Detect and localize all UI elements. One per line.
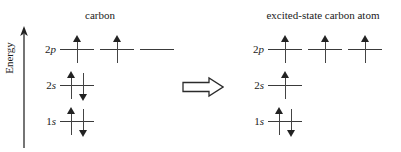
electron-spin-up xyxy=(360,35,370,65)
electron-spin-down xyxy=(78,107,88,137)
shell-label-subshell: s xyxy=(260,115,264,127)
shell-label-2p-left: 2p xyxy=(34,43,56,55)
shell-label-subshell: s xyxy=(52,115,56,127)
electron-spin-up xyxy=(280,35,290,65)
shell-label-subshell: s xyxy=(260,79,264,91)
shell-label-1s-right: 1s xyxy=(242,115,264,127)
electron-spin-up xyxy=(72,35,82,65)
orbital-box[interactable] xyxy=(140,35,174,65)
shell-label-2s-left: 2s xyxy=(34,79,56,91)
orbital-box[interactable] xyxy=(100,35,134,65)
orbital-line xyxy=(140,49,174,50)
orbital-box[interactable] xyxy=(268,71,302,101)
electron-spin-up xyxy=(280,71,290,101)
shell-label-2p-right: 2p xyxy=(242,43,264,55)
electron-spin-down xyxy=(78,71,88,101)
orbital-box[interactable] xyxy=(308,35,342,65)
orbital-box[interactable] xyxy=(60,107,94,137)
electron-spin-up xyxy=(66,71,76,101)
shell-label-2s-right: 2s xyxy=(242,79,264,91)
shell-label-subshell: p xyxy=(51,43,57,55)
electron-spin-up xyxy=(112,35,122,65)
orbital-box[interactable] xyxy=(60,71,94,101)
orbital-box[interactable] xyxy=(268,107,302,137)
shell-label-subshell: p xyxy=(259,43,265,55)
shell-label-subshell: s xyxy=(52,79,56,91)
shell-label-1s-left: 1s xyxy=(34,115,56,127)
electron-spin-up xyxy=(320,35,330,65)
electron-spin-up xyxy=(66,107,76,137)
orbital-box[interactable] xyxy=(268,35,302,65)
orbital-diagram-figure: carbon excited-state carbon atom Energy … xyxy=(0,0,401,152)
left-orbital-diagram: 2p 2s xyxy=(0,0,180,152)
transition-arrow-icon xyxy=(182,76,224,98)
orbital-box[interactable] xyxy=(348,35,382,65)
electron-spin-up xyxy=(274,107,284,137)
electron-spin-down xyxy=(286,107,296,137)
right-orbital-diagram: 2p 2s xyxy=(228,0,401,152)
orbital-box[interactable] xyxy=(60,35,94,65)
